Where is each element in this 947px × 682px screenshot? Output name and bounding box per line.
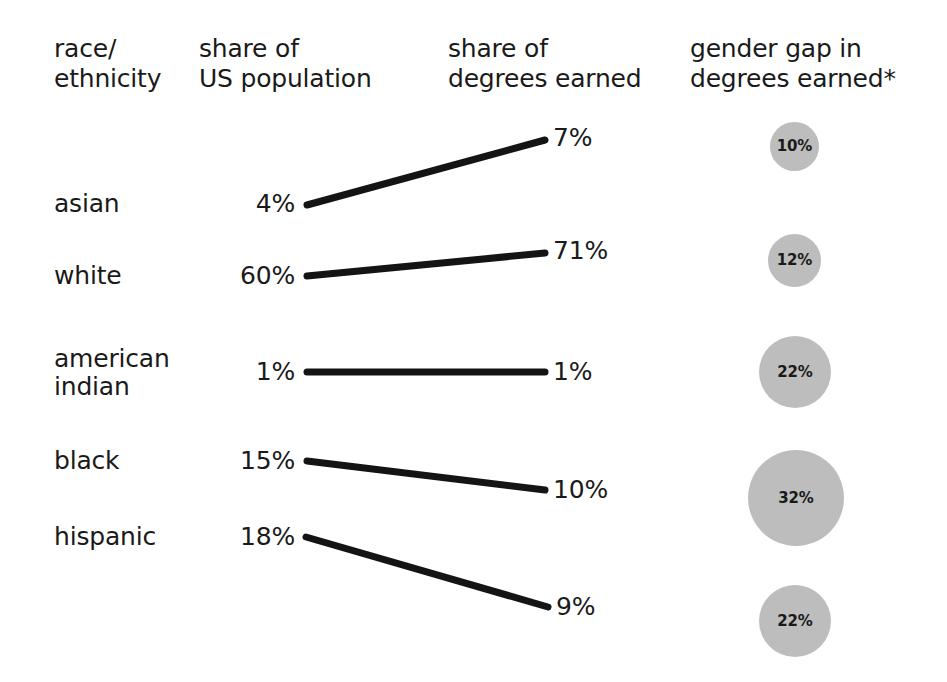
row-label-black: black (54, 447, 119, 475)
gender-gap-bubble-american-indian: 22% (759, 336, 831, 408)
gender-gap-bubble-white: 12% (768, 234, 821, 287)
slope-line-asian (307, 140, 545, 205)
gender-gap-label-asian: 10% (777, 139, 813, 154)
gender-gap-label-hispanic: 22% (777, 614, 813, 629)
row-label-white: white (54, 262, 121, 290)
value-degrees-asian: 7% (553, 124, 592, 152)
column-header-share-us-population: share of US population (199, 34, 372, 94)
value-degrees-hispanic: 9% (556, 593, 595, 621)
slope-line-white (307, 253, 545, 276)
gender-gap-label-white: 12% (777, 253, 813, 268)
gender-gap-bubble-hispanic: 22% (759, 585, 831, 657)
column-header-race-ethnicity: race/ ethnicity (54, 34, 161, 94)
row-label-asian: asian (54, 190, 119, 218)
column-header-gender-gap: gender gap in degrees earned* (690, 34, 896, 94)
value-degrees-white: 71% (553, 237, 608, 265)
slope-line-black (307, 461, 545, 490)
slope-line-hispanic (306, 537, 548, 607)
gender-gap-label-black: 32% (778, 491, 814, 506)
row-label-american-indian: american indian (54, 345, 170, 401)
value-degrees-american-indian: 1% (553, 358, 592, 386)
slopegraph-chart: race/ ethnicity share of US population s… (0, 0, 947, 682)
gender-gap-bubble-black: 32% (748, 450, 844, 546)
value-degrees-black: 10% (553, 476, 608, 504)
gender-gap-label-american-indian: 22% (777, 365, 813, 380)
column-header-share-degrees-earned: share of degrees earned (448, 34, 641, 94)
row-label-hispanic: hispanic (54, 523, 156, 551)
gender-gap-bubble-asian: 10% (770, 122, 819, 171)
